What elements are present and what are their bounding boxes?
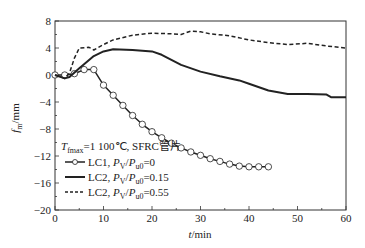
x-axis-ticks: 0102030405060 (52, 206, 352, 224)
data-point-marker (120, 102, 126, 108)
data-point-marker (91, 66, 97, 72)
svg-text:LC2, PV/Pu0=0.15: LC2, PV/Pu0=0.15 (88, 171, 169, 186)
svg-text:40: 40 (244, 212, 256, 224)
legend-entry-lc1: LC1, PV/Pu0=0 (65, 156, 156, 171)
svg-text:0: 0 (46, 69, 52, 81)
legend: Tfmax=1 100℃, SFRC管片 LC1, PV/Pu0=0 LC2, … (61, 139, 181, 201)
svg-text:50: 50 (292, 212, 304, 224)
svg-text:60: 60 (341, 212, 353, 224)
x-axis-label: t/min (188, 228, 212, 240)
data-point-marker (226, 161, 232, 167)
data-point-marker (197, 152, 203, 158)
data-point-marker (188, 149, 194, 155)
series-line-0 (55, 70, 268, 167)
svg-text:4: 4 (46, 42, 52, 54)
chart: 0102030405060 840−4−8−12−16−20 t/min fm/… (0, 0, 365, 248)
data-point-marker (139, 121, 145, 127)
svg-text:LC2, PV/Pu0=0.55: LC2, PV/Pu0=0.55 (88, 186, 169, 201)
svg-text:−16: −16 (34, 177, 52, 189)
series-line-1 (55, 49, 346, 97)
svg-text:10: 10 (98, 212, 110, 224)
data-point-marker (207, 156, 213, 162)
legend-entry-lc2-055: LC2, PV/Pu0=0.55 (65, 186, 169, 201)
data-point-marker (236, 163, 242, 169)
data-point-marker (100, 82, 106, 88)
data-point-marker (110, 92, 116, 98)
data-point-marker (246, 164, 252, 170)
svg-text:8: 8 (46, 15, 52, 27)
svg-text:−20: −20 (34, 204, 52, 216)
data-point-marker (256, 164, 262, 170)
data-point-marker (265, 164, 271, 170)
y-axis-label: fm/mm (9, 103, 24, 133)
data-point-marker (149, 129, 155, 135)
svg-text:−12: −12 (34, 150, 51, 162)
svg-text:−4: −4 (39, 96, 51, 108)
svg-text:−8: −8 (39, 123, 51, 135)
legend-entry-lc2-015: LC2, PV/Pu0=0.15 (65, 171, 169, 186)
svg-text:LC1, PV/Pu0=0: LC1, PV/Pu0=0 (88, 156, 156, 171)
data-point-marker (129, 112, 135, 118)
svg-text:0: 0 (52, 212, 58, 224)
svg-text:30: 30 (195, 212, 207, 224)
data-point-marker (217, 158, 223, 164)
svg-text:20: 20 (147, 212, 159, 224)
legend-title: Tfmax=1 100℃, SFRC管片 (61, 139, 181, 155)
